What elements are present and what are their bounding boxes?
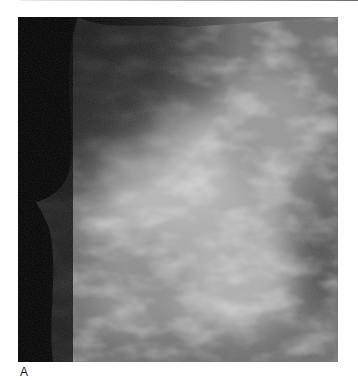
panel-label: A bbox=[20, 366, 28, 378]
film-grain bbox=[18, 17, 338, 362]
mammogram-image bbox=[18, 17, 338, 362]
top-rule-divider bbox=[20, 0, 358, 1]
mammogram-graphic bbox=[18, 17, 338, 362]
